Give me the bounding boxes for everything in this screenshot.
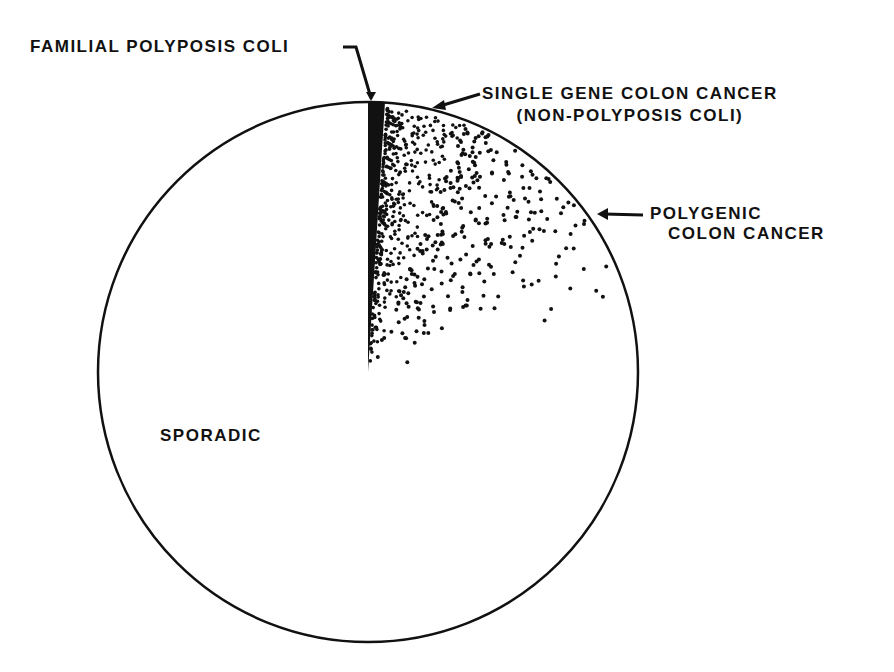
polygenic-arrowhead — [597, 208, 608, 220]
label-familial: FAMILIAL POLYPOSIS COLI — [30, 37, 289, 57]
label-single-gene: SINGLE GENE COLON CANCER (NON-POLYPOSIS … — [482, 84, 778, 126]
dotted-region — [369, 107, 609, 364]
label-sporadic: SPORADIC — [160, 426, 262, 446]
label-polygenic: POLYGENIC COLON CANCER — [650, 204, 825, 244]
familial-leader-line — [343, 47, 371, 98]
familial-arrowhead — [366, 92, 376, 101]
single-gene-leader-line — [440, 94, 480, 106]
polygenic-leader-line — [604, 214, 643, 215]
single-gene-arrowhead — [432, 100, 446, 110]
